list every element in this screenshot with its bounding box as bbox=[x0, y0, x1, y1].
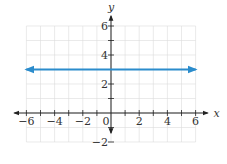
x-tick-label: −2 bbox=[75, 115, 91, 128]
x-tick-label: 2 bbox=[136, 115, 143, 128]
x-tick-label: −6 bbox=[18, 115, 34, 128]
y-tick-label: 2 bbox=[101, 78, 108, 91]
x-tick-label: −4 bbox=[46, 115, 62, 128]
axes bbox=[14, 16, 207, 133]
y-tick-label: 4 bbox=[101, 49, 108, 62]
x-axis-label: x bbox=[214, 107, 221, 120]
y-tick-label: 6 bbox=[101, 20, 108, 33]
x-tick-label: 4 bbox=[164, 115, 171, 128]
tick-labels: −6−4−20246−2246 bbox=[18, 20, 199, 149]
x-tick-label: 6 bbox=[192, 115, 199, 128]
y-axis-label: y bbox=[107, 1, 115, 14]
coordinate-plane: −6−4−20246−2246 x y bbox=[0, 0, 227, 164]
x-tick-label: 0 bbox=[103, 115, 110, 128]
y-tick-label: −2 bbox=[92, 136, 108, 149]
